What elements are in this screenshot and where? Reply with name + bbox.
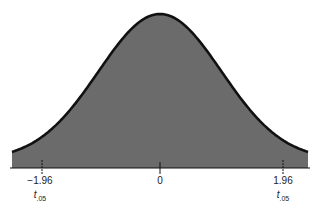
tick-label-center: 0 [157,175,163,186]
t-subscript: .05 [37,195,47,202]
t-critical-left: t.05 [34,189,47,200]
tick-label-right: 1.96 [273,175,292,186]
t-critical-right: t.05 [277,189,290,200]
t-subscript: .05 [280,195,290,202]
shaded-area [12,14,308,168]
tick-label-left: −1.96 [27,175,52,186]
